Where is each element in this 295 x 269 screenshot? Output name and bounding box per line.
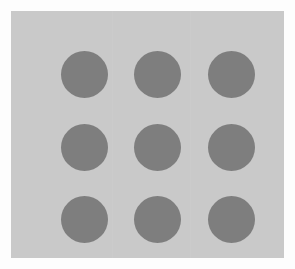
dot-r3-c3: [208, 196, 255, 243]
dot-r3-c2: [134, 196, 181, 243]
dot-r3-c1: [61, 196, 108, 243]
image-canvas: [0, 0, 295, 269]
dot-r2-c3: [208, 124, 255, 171]
scan-seam: [112, 11, 113, 258]
dot-r1-c2: [134, 51, 181, 98]
dot-r2-c1: [61, 124, 108, 171]
dot-r2-c2: [134, 124, 181, 171]
dot-r1-c1: [61, 51, 108, 98]
scan-seam: [190, 11, 191, 258]
dot-r1-c3: [208, 51, 255, 98]
